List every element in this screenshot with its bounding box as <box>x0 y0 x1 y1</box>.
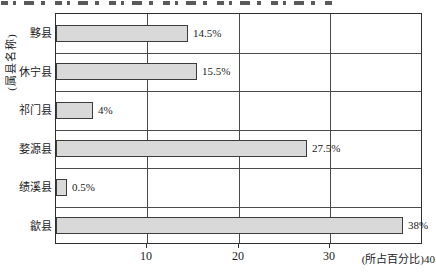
horizontal-gridline <box>56 91 421 92</box>
x-axis-tick-label: 10 <box>140 249 152 264</box>
bar <box>56 217 403 234</box>
bar <box>56 102 93 119</box>
horizontal-gridline <box>56 207 421 208</box>
vertical-gridline <box>147 14 148 243</box>
horizontal-gridline <box>56 53 421 54</box>
x-axis-unit-label: (所占百分比)40 <box>362 250 435 266</box>
bar-value-label: 4% <box>98 102 113 119</box>
bar-value-label: 27.5% <box>312 140 340 157</box>
bar <box>56 63 197 80</box>
cropped-text-fragments <box>1 1 332 5</box>
category-label: 黟县 <box>0 13 52 52</box>
plot-area: 14.5%15.5%4%27.5%0.5%38% <box>55 13 422 244</box>
x-axis-tick <box>238 244 239 248</box>
chart-figure: (属县名称) 14.5%15.5%4%27.5%0.5%38% 黟县休宁县祁门县… <box>0 0 436 279</box>
vertical-gridline <box>330 14 331 243</box>
category-label: 婺源县 <box>0 129 52 168</box>
bar <box>56 140 307 157</box>
category-label: 歙县 <box>0 206 52 245</box>
bar <box>56 179 67 196</box>
bar <box>56 25 188 42</box>
bar-value-label: 15.5% <box>202 63 230 80</box>
category-label: 祁门县 <box>0 90 52 129</box>
category-label: 休宁县 <box>0 52 52 91</box>
horizontal-gridline <box>56 130 421 131</box>
category-label: 绩溪县 <box>0 167 52 206</box>
x-axis-tick-label: 20 <box>232 249 244 264</box>
x-axis-tick-label: 30 <box>323 249 335 264</box>
vertical-gridline <box>239 14 240 243</box>
bar-value-label: 14.5% <box>193 25 221 42</box>
x-axis-tick <box>146 244 147 248</box>
horizontal-gridline <box>56 168 421 169</box>
x-axis-tick <box>329 244 330 248</box>
bar-value-label: 38% <box>408 217 428 234</box>
bar-value-label: 0.5% <box>72 179 95 196</box>
